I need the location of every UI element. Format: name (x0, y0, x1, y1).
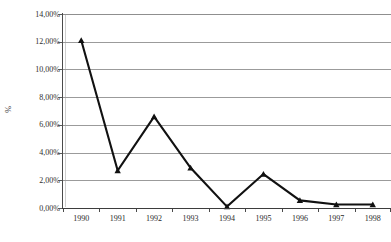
x-tick-label: 1994 (207, 214, 247, 224)
x-tick-mark (318, 209, 319, 212)
y-tick-label: 12,00% (6, 37, 60, 46)
x-tick-mark (245, 209, 246, 212)
x-tick-label: 1998 (353, 214, 391, 224)
y-tick-label: 2,00% (6, 176, 60, 185)
x-tick-mark (209, 209, 210, 212)
x-tick-mark (355, 209, 356, 212)
series-line (63, 14, 391, 208)
y-axis-tick-labels: 0,00%2,00%4,00%6,00%8,00%10,00%12,00%14,… (6, 0, 60, 242)
series-polyline (81, 40, 373, 206)
x-tick-label: 1997 (316, 214, 356, 224)
x-tick-mark (99, 209, 100, 212)
x-axis-tick-marks (63, 209, 391, 213)
x-tick-label: 1990 (61, 214, 101, 224)
data-point-marker (78, 37, 84, 43)
x-tick-label: 1992 (134, 214, 174, 224)
data-point-marker (260, 171, 266, 177)
line-chart: % 0,00%2,00%4,00%6,00%8,00%10,00%12,00%1… (0, 0, 391, 242)
x-tick-label: 1993 (171, 214, 211, 224)
x-tick-mark (282, 209, 283, 212)
y-tick-label: 8,00% (6, 93, 60, 102)
y-tick-label: 0,00% (6, 204, 60, 213)
x-tick-mark (136, 209, 137, 212)
y-tick-label: 4,00% (6, 148, 60, 157)
data-point-marker (151, 114, 157, 120)
y-tick-label: 14,00% (6, 10, 60, 19)
x-tick-mark (172, 209, 173, 212)
x-axis-tick-labels: 199019911992199319941995199619971998 (63, 214, 391, 230)
y-tick-label: 10,00% (6, 65, 60, 74)
plot-area (63, 14, 391, 208)
x-tick-mark (63, 209, 64, 212)
x-tick-label: 1996 (280, 214, 320, 224)
y-tick-label: 6,00% (6, 120, 60, 129)
x-tick-label: 1991 (98, 214, 138, 224)
x-tick-label: 1995 (243, 214, 283, 224)
